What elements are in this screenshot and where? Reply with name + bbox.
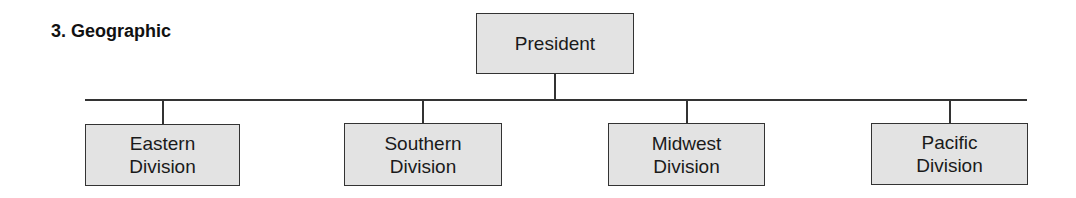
pacific-line2: Division bbox=[916, 154, 983, 177]
midwest-connector bbox=[686, 99, 688, 124]
section-title: 3. Geographic bbox=[51, 21, 171, 42]
eastern-line2: Division bbox=[129, 155, 196, 178]
southern-line2: Division bbox=[384, 155, 461, 178]
southern-connector bbox=[422, 99, 424, 124]
pacific-division-box: Pacific Division bbox=[871, 123, 1028, 185]
midwest-division-box: Midwest Division bbox=[608, 123, 765, 186]
southern-line1: Southern bbox=[384, 132, 461, 155]
horizontal-connector bbox=[85, 99, 1027, 101]
pacific-connector bbox=[949, 99, 951, 124]
eastern-line1: Eastern bbox=[129, 132, 196, 155]
root-connector bbox=[554, 74, 556, 99]
president-label: President bbox=[515, 32, 595, 55]
midwest-line2: Division bbox=[652, 155, 722, 178]
eastern-connector bbox=[162, 99, 164, 124]
midwest-line1: Midwest bbox=[652, 132, 722, 155]
pacific-line1: Pacific bbox=[916, 131, 983, 154]
southern-division-box: Southern Division bbox=[344, 123, 502, 186]
president-box: President bbox=[476, 13, 634, 74]
eastern-division-box: Eastern Division bbox=[85, 124, 240, 186]
